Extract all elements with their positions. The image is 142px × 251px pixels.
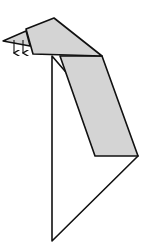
diagram-svg [0,0,142,251]
head-fold [26,18,102,56]
origami-diagram [0,0,142,251]
beak-fold [3,31,30,46]
